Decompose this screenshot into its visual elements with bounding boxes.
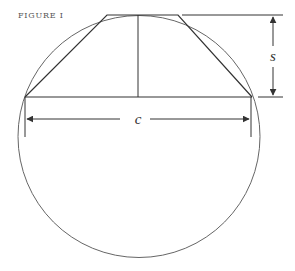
sagitta-label: s [270,48,276,64]
circle-segment-diagram: c s [0,0,295,271]
chord-label: c [135,111,142,127]
circle-outline [18,16,260,258]
